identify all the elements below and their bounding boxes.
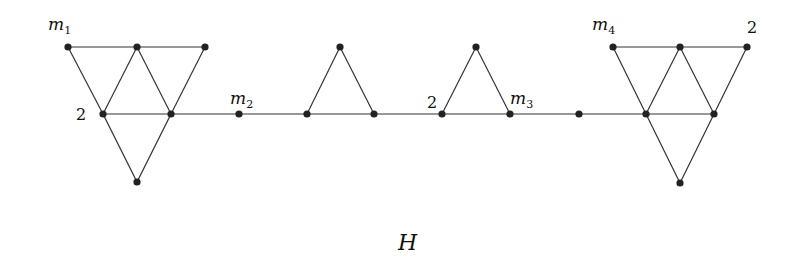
graph-node (676, 43, 683, 50)
graph-edge (103, 47, 137, 114)
node-label: 2 (427, 93, 437, 112)
graph-edge (680, 47, 714, 114)
graph-edge (613, 47, 646, 114)
node-labels: m12m22m3m42 (48, 14, 757, 124)
node-label: m3 (510, 88, 533, 111)
graph-node (710, 110, 717, 117)
graph-node (575, 110, 582, 117)
graph-diagram: m12m22m3m42 H (0, 0, 796, 266)
node-label: m2 (230, 88, 253, 111)
graph-node (133, 43, 140, 50)
graph-edge (476, 47, 510, 114)
graph-edge (307, 47, 340, 114)
figure-caption: H (397, 230, 418, 255)
graph-node (64, 43, 71, 50)
node-label: 2 (76, 105, 86, 124)
graph-node (609, 43, 616, 50)
graph-edge (137, 114, 171, 182)
graph-node (133, 178, 140, 185)
graph-node (201, 43, 208, 50)
graph-edge (646, 114, 680, 183)
graph-edge (646, 47, 680, 114)
graph-node (303, 110, 310, 117)
graph-node (506, 110, 513, 117)
graph-nodes (64, 43, 750, 186)
graph-node (642, 110, 649, 117)
node-label: 2 (747, 18, 757, 37)
graph-edge (171, 47, 205, 114)
graph-node (370, 110, 377, 117)
graph-edge (103, 114, 137, 182)
graph-node (438, 110, 445, 117)
graph-edge (680, 114, 714, 183)
graph-node (472, 43, 479, 50)
graph-node (235, 110, 242, 117)
node-label: m1 (48, 14, 71, 37)
graph-node (167, 110, 174, 117)
graph-node (336, 43, 343, 50)
graph-node (99, 110, 106, 117)
graph-node (743, 43, 750, 50)
graph-edge (442, 47, 476, 114)
node-label: m4 (592, 14, 615, 37)
graph-edge (714, 47, 747, 114)
graph-node (676, 179, 683, 186)
graph-edge (137, 47, 171, 114)
graph-edge (68, 47, 103, 114)
graph-edge (340, 47, 374, 114)
